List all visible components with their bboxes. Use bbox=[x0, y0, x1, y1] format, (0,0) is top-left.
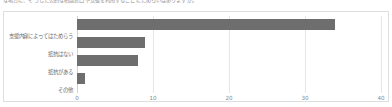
bar-row bbox=[77, 34, 381, 52]
xtick-label: 0 bbox=[75, 95, 79, 102]
category-axis-labels: 支援内容によってはためらう 抵抗はない 抵抗がある その他 bbox=[4, 27, 76, 99]
chart-screenshot: な場合に、そうした公的な相談窓口や支援を利用することにためらいはありますか。 支… bbox=[0, 0, 392, 107]
bar-series bbox=[77, 16, 381, 88]
bar bbox=[77, 37, 145, 48]
category-label-row: 抵抗がある bbox=[4, 63, 76, 81]
plot-area: 0 10 20 30 40 bbox=[77, 16, 381, 93]
xtick-label: 20 bbox=[225, 95, 232, 102]
xtick-label: 40 bbox=[377, 95, 384, 102]
category-label: 抵抗がある bbox=[48, 69, 73, 75]
category-label: 支援内容によってはためらう bbox=[9, 33, 73, 39]
category-label-row: 支援内容によってはためらう bbox=[4, 27, 76, 45]
category-label-row: その他 bbox=[4, 81, 76, 99]
category-label: 抵抗はない bbox=[48, 51, 73, 57]
bar-row bbox=[77, 52, 381, 70]
caption-strip: な場合に、そうした公的な相談窓口や支援を利用することにためらいはありますか。 bbox=[0, 0, 392, 9]
xtick-label: 30 bbox=[301, 95, 308, 102]
xtick-label: 10 bbox=[149, 95, 156, 102]
bar-row bbox=[77, 70, 381, 88]
bar bbox=[77, 19, 335, 30]
category-label: その他 bbox=[58, 87, 73, 93]
caption-text: な場合に、そうした公的な相談窓口や支援を利用することにためらいはありますか。 bbox=[3, 0, 197, 3]
gridline-40 bbox=[381, 16, 382, 93]
bar-row bbox=[77, 16, 381, 34]
bar bbox=[77, 73, 85, 84]
bar bbox=[77, 55, 138, 66]
chart-frame: 支援内容によってはためらう 抵抗はない 抵抗がある その他 bbox=[3, 11, 389, 102]
category-label-row: 抵抗はない bbox=[4, 45, 76, 63]
